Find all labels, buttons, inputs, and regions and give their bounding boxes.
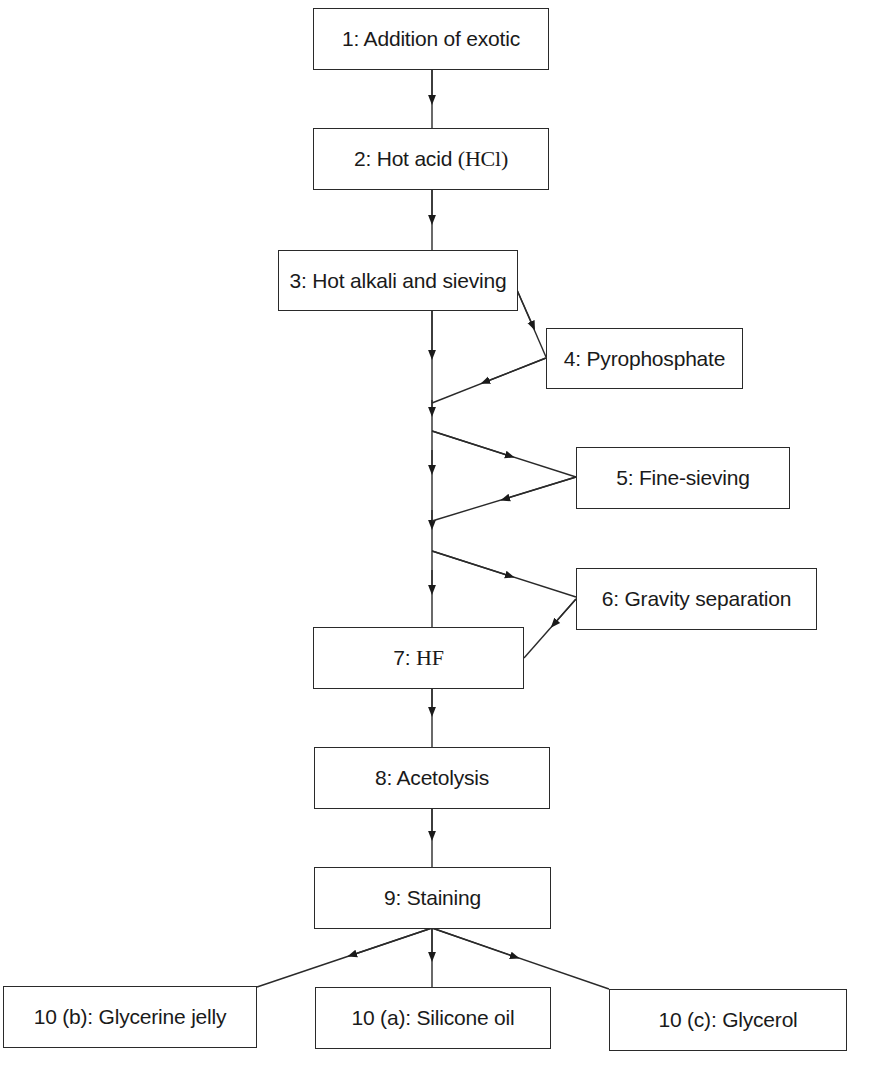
node-8-acetolysis: 8: Acetolysis — [314, 747, 550, 809]
node-label: 2: Hot acid — [354, 147, 458, 171]
node-label-chem: (HCl) — [458, 146, 508, 172]
node-6-gravity-separation: 6: Gravity separation — [576, 568, 817, 630]
node-label: 4: Pyrophosphate — [564, 347, 725, 371]
node-5-fine-sieving: 5: Fine-sieving — [576, 447, 790, 509]
node-label: 10 (a): Silicone oil — [352, 1006, 515, 1030]
node-10b-glycerine-jelly: 10 (b): Glycerine jelly — [3, 986, 257, 1048]
node-4-pyrophosphate: 4: Pyrophosphate — [546, 328, 743, 389]
node-1-addition-of-exotic: 1: Addition of exotic — [313, 8, 549, 70]
node-label: 6: Gravity separation — [602, 587, 792, 611]
node-10a-silicone-oil: 10 (a): Silicone oil — [315, 987, 551, 1049]
node-10c-glycerol: 10 (c): Glycerol — [609, 989, 847, 1051]
node-label: 10 (b): Glycerine jelly — [34, 1005, 227, 1029]
node-label: 9: Staining — [384, 886, 481, 910]
node-label: 10 (c): Glycerol — [658, 1008, 797, 1032]
node-label-chem: HF — [416, 645, 444, 671]
node-7-hf: 7: HF — [313, 627, 524, 689]
node-label: 8: Acetolysis — [375, 766, 489, 790]
node-3-hot-alkali-sieving: 3: Hot alkali and sieving — [278, 250, 518, 311]
node-label: 1: Addition of exotic — [342, 27, 520, 51]
node-label: 3: Hot alkali and sieving — [290, 269, 507, 293]
node-9-staining: 9: Staining — [314, 867, 551, 929]
node-2-hot-acid: 2: Hot acid (HCl) — [313, 128, 549, 190]
node-label: 7: — [393, 646, 416, 670]
node-label: 5: Fine-sieving — [616, 466, 750, 490]
